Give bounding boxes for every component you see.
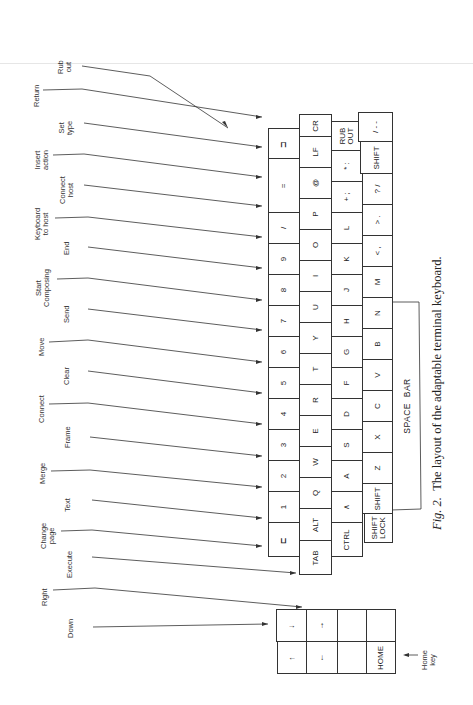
label-home-key: Home key bbox=[421, 650, 437, 670]
key-blank-1[interactable] bbox=[337, 609, 367, 642]
key-row1-0[interactable]: ⊏ bbox=[268, 522, 300, 557]
key-shift-left[interactable]: SHIFT bbox=[362, 483, 393, 514]
label-return: Return bbox=[33, 84, 41, 107]
key-alt[interactable]: ALT bbox=[299, 508, 332, 541]
key-f[interactable]: F bbox=[331, 367, 363, 399]
key-row1-11[interactable]: = bbox=[268, 158, 300, 213]
key-row1-8[interactable]: 8 bbox=[268, 274, 300, 306]
label-set-type: Set type bbox=[58, 121, 74, 135]
key-y[interactable]: Y bbox=[299, 322, 332, 354]
key-slash-dash[interactable]: / - - bbox=[358, 112, 393, 142]
key-p[interactable]: P bbox=[299, 198, 332, 230]
key-row1-2[interactable]: 2 bbox=[268, 460, 300, 492]
key-up-arrow[interactable]: ↑ bbox=[306, 609, 338, 642]
label-connect-host: Connect host bbox=[59, 176, 75, 204]
key-row1-4[interactable]: 4 bbox=[268, 398, 300, 430]
key-cr[interactable]: CR bbox=[299, 114, 332, 137]
space-bar[interactable]: SPACE BAR bbox=[393, 302, 420, 509]
key-shift-right[interactable]: SHIFT bbox=[360, 141, 393, 174]
label-send: Send bbox=[63, 305, 71, 323]
label-start-composing: Start Composing bbox=[35, 269, 51, 307]
key-a[interactable]: A bbox=[331, 460, 363, 492]
key-r[interactable]: R bbox=[299, 384, 332, 416]
key-ctrl[interactable]: CTRL bbox=[331, 522, 363, 557]
key-row1-10[interactable]: / bbox=[268, 212, 300, 244]
key-right-arrow[interactable]: → bbox=[276, 609, 307, 642]
key-w[interactable]: W bbox=[299, 446, 332, 478]
label-text: Text bbox=[64, 498, 72, 512]
key-question-slash[interactable]: ? / bbox=[362, 173, 393, 205]
figure-caption: Fig. 2. The layout of the adaptable term… bbox=[430, 256, 445, 530]
key-tab[interactable]: TAB bbox=[299, 540, 332, 575]
label-move: Move bbox=[38, 338, 46, 356]
label-down: Down bbox=[67, 619, 75, 638]
key-h[interactable]: H bbox=[331, 305, 363, 337]
key-x[interactable]: X bbox=[362, 421, 393, 453]
key-q[interactable]: Q bbox=[299, 477, 332, 509]
label-frame: Frame bbox=[64, 426, 72, 448]
key-m[interactable]: M bbox=[362, 266, 393, 298]
key-plus-semicolon[interactable]: + ; bbox=[331, 181, 363, 213]
key-row1-6[interactable]: 6 bbox=[268, 336, 300, 368]
key-blank-2[interactable] bbox=[366, 609, 396, 642]
key-caret[interactable]: ∧ bbox=[331, 491, 363, 523]
key-d[interactable]: D bbox=[331, 398, 363, 430]
key-v[interactable]: V bbox=[362, 359, 393, 391]
label-keyboard-to-host: Keyboard to host bbox=[34, 208, 50, 240]
label-merge: Merge bbox=[39, 463, 47, 484]
key-b[interactable]: B bbox=[362, 328, 393, 360]
key-row1-3[interactable]: 3 bbox=[268, 429, 300, 461]
key-row1-5[interactable]: 5 bbox=[268, 367, 300, 399]
key-shift-lock[interactable]: SHIFT LOCK bbox=[364, 513, 393, 543]
key-blank-3[interactable] bbox=[337, 641, 367, 674]
key-u[interactable]: U bbox=[299, 291, 332, 323]
key-row1-7[interactable]: 7 bbox=[268, 305, 300, 337]
key-c[interactable]: C bbox=[362, 390, 393, 422]
label-rub-out: Rub out bbox=[57, 60, 73, 74]
key-home[interactable]: HOME bbox=[366, 641, 396, 674]
key-row1-1[interactable]: 1 bbox=[268, 491, 300, 523]
key-greater-period[interactable]: > . bbox=[362, 204, 393, 236]
key-z[interactable]: Z bbox=[362, 452, 393, 484]
label-insert-action: Insert action bbox=[34, 150, 50, 170]
caption-text: The layout of the adaptable terminal key… bbox=[430, 256, 444, 490]
key-t[interactable]: T bbox=[299, 353, 332, 385]
key-n[interactable]: N bbox=[362, 297, 393, 329]
key-at[interactable]: @ bbox=[299, 167, 332, 199]
key-down-arrow[interactable]: ↓ bbox=[306, 641, 338, 674]
label-clear: Clear bbox=[63, 367, 71, 385]
key-k[interactable]: K bbox=[331, 243, 363, 275]
key-star-colon[interactable]: * : bbox=[331, 150, 363, 182]
key-g[interactable]: G bbox=[331, 336, 363, 368]
label-change-page: Change page bbox=[40, 523, 56, 549]
label-execute: Execute bbox=[66, 551, 74, 578]
key-row1-12[interactable]: ⊐ bbox=[268, 128, 300, 159]
key-i[interactable]: I bbox=[299, 260, 332, 292]
key-left-arrow[interactable]: ← bbox=[277, 641, 307, 674]
label-right: Right bbox=[41, 588, 49, 606]
caption-figure-number: Fig. 2. bbox=[430, 497, 444, 530]
label-end: End bbox=[63, 242, 71, 255]
key-o[interactable]: O bbox=[299, 229, 332, 261]
key-l[interactable]: L bbox=[331, 212, 363, 244]
label-connect: Connect bbox=[38, 395, 46, 423]
key-row1-9[interactable]: 9 bbox=[268, 243, 300, 275]
key-lf[interactable]: LF bbox=[299, 136, 332, 168]
key-e[interactable]: E bbox=[299, 415, 332, 447]
key-j[interactable]: J bbox=[331, 274, 363, 306]
key-s[interactable]: S bbox=[331, 429, 363, 461]
key-less-comma[interactable]: < , bbox=[362, 235, 393, 267]
